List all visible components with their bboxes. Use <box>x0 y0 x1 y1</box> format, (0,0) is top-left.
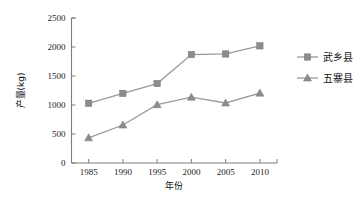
data-point-marker <box>256 89 264 96</box>
y-tick-label: 2000 <box>48 42 67 52</box>
x-tick-label: 2000 <box>182 167 201 177</box>
y-tick-label: 1000 <box>48 100 67 110</box>
data-point-marker <box>120 90 126 96</box>
axes <box>72 18 278 163</box>
data-point-marker <box>188 51 194 57</box>
series-line-2 <box>89 93 260 138</box>
chart-canvas: 05001000150020002500 1985199019952000200… <box>0 0 362 204</box>
x-axis-title: 年份 <box>165 180 183 191</box>
data-point-marker <box>222 51 228 57</box>
y-tick-label: 1500 <box>48 71 67 81</box>
data-point-marker <box>187 93 195 100</box>
line-chart: 05001000150020002500 1985199019952000200… <box>0 0 362 204</box>
y-tick-label: 0 <box>61 158 66 168</box>
x-tick-label: 2010 <box>251 167 270 177</box>
x-tick-label: 1995 <box>148 167 167 177</box>
data-point-marker <box>119 121 127 128</box>
legend-label-1: 武乡县 <box>323 51 353 63</box>
y-tick-label: 2500 <box>48 13 67 23</box>
data-series <box>85 43 264 141</box>
chart-legend: 武乡县五寨县 <box>297 51 353 84</box>
legend-label-2: 五寨县 <box>323 72 353 84</box>
x-tick-label: 1990 <box>114 167 133 177</box>
x-tick-label: 1985 <box>80 167 99 177</box>
data-point-marker <box>85 100 91 106</box>
series-line-1 <box>89 46 260 103</box>
data-point-marker <box>257 43 263 49</box>
x-tick-label: 2005 <box>217 167 236 177</box>
x-axis-ticks: 198519901995200020052010 <box>80 159 270 177</box>
square-marker <box>304 54 310 60</box>
data-point-marker <box>154 80 160 86</box>
y-axis-title: 产量(kg) <box>15 73 26 109</box>
y-tick-label: 500 <box>52 129 66 139</box>
